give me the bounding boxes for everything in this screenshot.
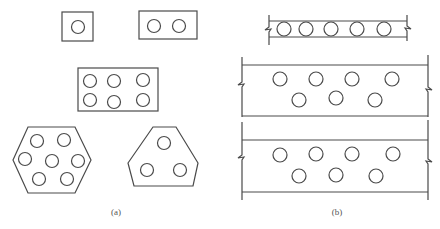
bar-circle bbox=[19, 153, 32, 166]
bar-circle bbox=[345, 147, 359, 161]
left-break-line bbox=[238, 122, 244, 200]
bar-circle bbox=[329, 91, 343, 105]
bar-circle bbox=[72, 155, 85, 168]
bar-circle bbox=[108, 96, 121, 109]
bar-circle bbox=[299, 22, 313, 36]
bar-circle bbox=[158, 137, 171, 150]
bar-circle bbox=[141, 164, 154, 177]
bar-circle bbox=[273, 72, 287, 86]
three-bar-truncated-triangle bbox=[128, 127, 198, 186]
thick-slab-lower bbox=[238, 120, 432, 200]
bar-circle bbox=[108, 75, 121, 88]
bar-circle bbox=[72, 21, 85, 34]
right-break-line bbox=[426, 120, 432, 200]
bar-circle bbox=[173, 20, 186, 33]
bar-circle bbox=[31, 135, 44, 148]
six-bar-rect bbox=[78, 68, 158, 111]
single-bar-square bbox=[62, 12, 93, 41]
bar-circle bbox=[273, 148, 287, 162]
bar-circle bbox=[292, 169, 306, 183]
panel-a-bar-groups bbox=[13, 11, 198, 193]
bar-circle bbox=[350, 22, 364, 36]
bar-arrangement-diagram: (a) (b) bbox=[0, 0, 440, 229]
bar-circle bbox=[277, 22, 291, 36]
bar-circle bbox=[369, 169, 383, 183]
section-outline bbox=[13, 127, 91, 193]
left-break-line bbox=[265, 15, 271, 45]
bar-circle bbox=[61, 173, 74, 186]
bar-circle bbox=[46, 155, 59, 168]
right-break-line bbox=[426, 55, 432, 117]
section-outline bbox=[128, 127, 198, 186]
left-break-line bbox=[238, 57, 244, 117]
thick-slab-upper bbox=[238, 55, 432, 117]
thin-slab bbox=[265, 15, 411, 45]
bar-circle bbox=[345, 72, 359, 86]
bar-circle bbox=[386, 147, 400, 161]
bar-circle bbox=[137, 94, 150, 107]
bar-circle bbox=[148, 20, 161, 33]
bar-circle bbox=[137, 74, 150, 87]
double-bar-rect bbox=[139, 11, 197, 39]
bar-circle bbox=[324, 22, 338, 36]
panel-b-caption: (b) bbox=[332, 207, 343, 217]
section-outline bbox=[62, 12, 93, 41]
bar-circle bbox=[58, 134, 71, 147]
bar-circle bbox=[309, 147, 323, 161]
panel-b-slab-sections bbox=[238, 15, 432, 200]
bar-circle bbox=[84, 75, 97, 88]
bar-circle bbox=[84, 94, 97, 107]
bar-circle bbox=[292, 93, 306, 107]
panel-a-caption: (a) bbox=[111, 207, 121, 217]
seven-bar-hexagon bbox=[13, 127, 91, 193]
bar-circle bbox=[368, 93, 382, 107]
bar-circle bbox=[377, 22, 391, 36]
bar-circle bbox=[33, 173, 46, 186]
bar-circle bbox=[309, 72, 323, 86]
bar-circle bbox=[329, 168, 343, 182]
bar-circle bbox=[385, 72, 399, 86]
bar-circle bbox=[174, 164, 187, 177]
